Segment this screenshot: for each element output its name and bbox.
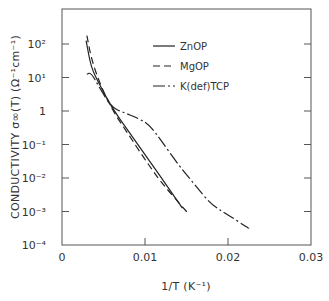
legend-label: MgOP bbox=[180, 61, 209, 72]
x-axis-label: 1/T (K⁻¹) bbox=[161, 280, 211, 293]
legend: ZnOPMgOPK(def)TCP bbox=[153, 41, 229, 92]
x-tick-label: 0.02 bbox=[216, 251, 241, 264]
y-tick-label: 10⁻¹ bbox=[22, 139, 46, 152]
y-axis-ticks: 10²10¹110⁻¹10⁻²10⁻³10⁻⁴ bbox=[22, 38, 311, 252]
y-tick-label: 1 bbox=[39, 105, 46, 118]
conductivity-chart: 10²10¹110⁻¹10⁻²10⁻³10⁻⁴ 00.010.020.03 Zn… bbox=[0, 0, 329, 301]
x-axis-ticks: 00.010.020.03 bbox=[59, 238, 324, 264]
y-tick-label: 10⁻³ bbox=[22, 206, 46, 219]
x-tick-label: 0 bbox=[59, 251, 66, 264]
series-k-def-tcp bbox=[87, 73, 249, 228]
y-axis-label: CONDUCTIVITY σ∞(T) (Ω⁻¹cm⁻¹) bbox=[9, 35, 22, 219]
x-tick-label: 0.01 bbox=[133, 251, 158, 264]
x-tick-label: 0.03 bbox=[299, 251, 324, 264]
y-tick-label: 10⁻⁴ bbox=[22, 239, 47, 252]
y-tick-label: 10⁻² bbox=[22, 172, 46, 185]
series-mgop bbox=[87, 36, 187, 212]
data-series bbox=[86, 36, 249, 229]
legend-label: K(def)TCP bbox=[180, 81, 229, 92]
y-tick-label: 10² bbox=[28, 38, 46, 51]
y-tick-label: 10¹ bbox=[28, 72, 46, 85]
legend-label: ZnOP bbox=[180, 41, 207, 52]
